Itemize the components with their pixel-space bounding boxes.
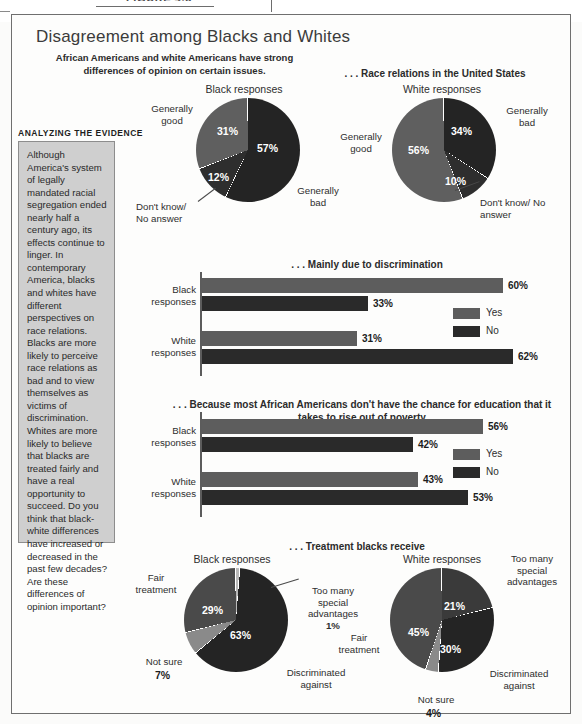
top-left-rule [0,11,10,12]
bar-white-yes-discrimination [202,331,357,346]
pie-label-treatment-white-toomany: Too many special advantages [500,553,564,588]
pie-value-white-good: 56% [408,144,429,156]
bar-black-yes-education [202,419,483,434]
bar-value-white-yes-discrimination: 31% [362,333,382,344]
bar-black-yes-discrimination [202,278,503,293]
legend-swatch-no [453,326,480,337]
pie-title-treatment-white: White responses [382,553,502,565]
section-heading-treatment: . . . Treatment blacks receive [192,540,522,553]
pie-label-treatment-black-toomany: Too many special advantages 1% [300,585,366,631]
bar-value-white-no-education: 53% [473,492,493,503]
bar-value-black-no-education: 42% [418,439,438,450]
legend-label-no: No [486,325,499,336]
bar-white-yes-education [202,472,418,487]
pie-treatment-white-slices [390,568,494,672]
pie-value-treatment-white-discriminated: 30% [440,643,461,655]
pie-label-treatment-white-fair: Fair treatment [330,632,388,655]
bar-group-label-white-text: White responses [151,335,196,358]
pie-label-treatment-black-fair: Fair treatment [129,572,183,595]
pie-label-treatment-black-toomany-text: Too many special advantages [308,585,358,619]
bar-value-white-yes-education: 43% [423,474,443,485]
pie-value-white-bad: 34% [451,125,472,137]
pie-value-treatment-white-toomany: 21% [444,600,465,612]
pie-race-black-slices [196,98,300,202]
pie-value-treatment-black-fair: 29% [202,604,223,616]
legend-label-yes: Yes [486,307,502,318]
figure-label-rule [96,6,214,7]
bar-white-no-education [202,490,468,505]
bar-group-label-white-edu: White responses [132,476,196,499]
legend-label-no-edu: No [486,466,499,477]
pie-label-white-dont-know: Don't know/ No answer [480,197,546,220]
pie-label-treatment-black-discriminated: Discriminated against [280,667,352,690]
bar-value-black-no-discrimination: 33% [373,298,393,309]
bar-group-label-white: White responses [132,335,196,358]
pie-value-treatment-white-fair: 45% [408,626,429,638]
pie-label-treatment-white-notsure: Not sure [408,694,464,706]
pie-value-black-bad: 57% [257,142,278,154]
pie-label-black-generally-bad: Generally bad [290,185,346,208]
pie-title-treatment-black: Black responses [172,553,292,565]
figure-page: FIGURE 4.3 Disagreement among Blacks and… [0,0,582,724]
pie-leader-treatment-black-toomany [271,579,299,588]
pie-label-treatment-white-discriminated: Discriminated against [482,668,556,691]
bar-group-label-white-edu-text: White responses [151,476,196,499]
bar-black-no-education [202,437,413,452]
pie-value-black-dontknow: 12% [208,171,229,183]
pie-value-white-dontknow: 10% [445,175,466,187]
pie-title-white-responses: White responses [382,83,502,95]
pie-label-black-generally-good: Generally good [142,103,202,126]
bar-black-no-discrimination [202,296,368,311]
figure-subtitle: African Americans and white Americans ha… [52,51,297,77]
page-title: Disagreement among Blacks and Whites [36,27,350,47]
bar-value-black-yes-education: 56% [488,421,508,432]
legend-swatch-yes-edu [453,449,480,460]
pie-value-treatment-black-notsure: 7% [155,669,170,681]
pie-label-treatment-black-notsure: Not sure [136,656,192,668]
bar-group-label-black-text: Black responses [151,284,196,307]
bar-group-label-black: Black responses [132,284,196,307]
bar-value-black-yes-discrimination: 60% [508,280,528,291]
section-heading-discrimination: . . . Mainly due to discrimination [192,258,542,271]
pie-value-treatment-black-discriminated: 63% [230,629,251,641]
legend-label-yes-edu: Yes [486,448,502,459]
pie-value-treatment-white-notsure: 4% [426,707,441,719]
pie-label-black-dont-know: Don't know/ No answer [136,201,200,224]
figure-box: Disagreement among Blacks and Whites Afr… [11,14,571,714]
pie-leader-black-dontknow [198,188,216,202]
pie-treatment-black-slices [184,568,288,672]
analyzing-evidence-heading: ANALYZING THE EVIDENCE [18,128,143,138]
figure-tick-mark [271,0,272,12]
bar-group-label-black-edu-text: Black responses [151,425,196,448]
legend-swatch-yes [453,308,480,319]
pie-label-white-generally-good: Generally good [332,131,390,154]
bar-group-label-black-edu: Black responses [132,425,196,448]
analyzing-evidence-text: Although America's system of legally man… [27,149,107,613]
bar-white-no-discrimination [202,349,513,364]
bar-value-white-no-discrimination: 62% [518,351,538,362]
pie-title-black-responses: Black responses [184,83,304,95]
pie-label-white-generally-bad: Generally bad [499,105,555,128]
analyzing-evidence-box: Although America's system of legally man… [18,141,115,543]
pie-value-black-good: 31% [217,125,238,137]
pie-value-treatment-black-toomany: 1% [326,620,340,631]
section-heading-race-relations: . . . Race relations in the United State… [300,67,570,80]
figure-label: FIGURE 4.3 [104,0,214,1]
legend-swatch-no-edu [453,467,480,478]
